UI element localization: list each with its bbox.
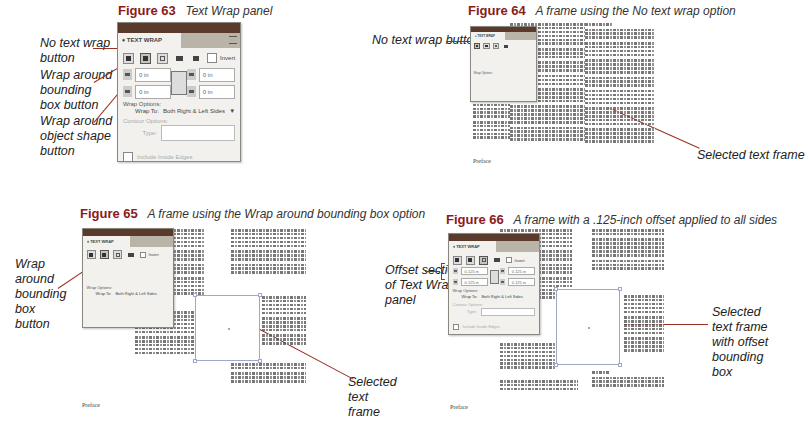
invert-option[interactable]: Invert	[140, 252, 159, 258]
object-shape-icon	[495, 45, 498, 48]
include-inside-edges-checkbox[interactable]	[123, 152, 133, 162]
jump-next-column-button[interactable]	[190, 53, 201, 64]
wrap-to-select[interactable]: Both Right & Left Sides	[481, 294, 535, 299]
jump-object-button[interactable]	[126, 250, 135, 259]
selected-text-frame[interactable]	[585, 23, 655, 146]
wrap-bounding-box-button[interactable]	[140, 53, 151, 64]
no-text-wrap-button[interactable]	[123, 53, 134, 64]
no-text-wrap-button[interactable]	[87, 250, 96, 259]
tab-text-wrap[interactable]: ♦ TEXT WRAP	[83, 236, 130, 247]
right-offset-icon	[500, 279, 505, 285]
wrap-object-shape-button[interactable]	[479, 256, 488, 265]
object-shape-icon	[116, 253, 120, 257]
contour-type-select[interactable]	[161, 125, 235, 141]
tab-text-wrap[interactable]: ♦ TEXT WRAP	[471, 32, 505, 40]
include-inside-edges-option[interactable]: Include Inside Edges	[118, 142, 240, 162]
wrap-object-shape-button[interactable]	[493, 43, 500, 50]
page-footer: Preface	[473, 158, 491, 164]
invert-checkbox[interactable]	[207, 53, 217, 63]
selected-text-frame[interactable]	[195, 295, 260, 361]
panel-tabbar: ♦ TEXT WRAP	[471, 32, 536, 40]
right-offset-icon	[187, 86, 196, 97]
selected-text-frame-offset[interactable]	[556, 289, 620, 365]
right-offset-input[interactable]: 0 in	[199, 85, 235, 99]
bottom-offset-input[interactable]: 0 in	[135, 85, 171, 99]
figure-63-title: Figure 63 Text Wrap panel	[118, 3, 272, 18]
type-label: Type:	[142, 130, 157, 136]
jump-column-icon	[193, 56, 200, 60]
left-offset-input[interactable]: 0.125 in	[508, 267, 536, 275]
contour-type-select[interactable]	[481, 308, 536, 316]
panel-menu-icon[interactable]	[229, 36, 237, 44]
wrap-bounding-box-button[interactable]	[466, 256, 475, 265]
no-text-wrap-button[interactable]	[453, 256, 462, 265]
resize-handle[interactable]	[258, 293, 262, 297]
top-offset-input[interactable]: 0.125 in	[461, 267, 489, 275]
jump-object-icon	[128, 253, 133, 257]
invert-checkbox[interactable]	[140, 252, 146, 258]
wrap-to-label: Wrap To:	[462, 294, 478, 299]
tab-text-wrap[interactable]: ♦ TEXT WRAP	[118, 33, 181, 48]
panel-titlebar[interactable]	[83, 229, 173, 236]
invert-option[interactable]: Invert	[506, 257, 525, 263]
resize-handle[interactable]	[258, 359, 262, 363]
no-text-wrap-button[interactable]	[474, 43, 481, 50]
panel-titlebar[interactable]	[118, 23, 240, 33]
bottom-offset-input[interactable]: 0.125 in	[461, 278, 489, 286]
invert-option[interactable]: Invert	[207, 53, 235, 63]
wrap-bounding-box-button[interactable]	[100, 250, 109, 259]
contour-options-label: Contour Options:	[449, 300, 539, 307]
wrap-to-row: Wrap To: Both Right & Left Sides▼	[118, 107, 240, 115]
include-inside-edges-option[interactable]: Include Inside Edges	[449, 317, 539, 332]
wrap-to-value: Both Right & Left Sides	[115, 291, 156, 296]
jump-object-button[interactable]	[502, 43, 509, 50]
callout-line	[446, 41, 472, 42]
wrap-object-shape-button[interactable]	[113, 250, 122, 259]
jump-object-button[interactable]	[492, 256, 501, 265]
wrap-to-row: Wrap To: Both Right & Left Sides	[83, 290, 173, 297]
callout-line	[425, 271, 440, 272]
invert-checkbox[interactable]	[506, 257, 512, 263]
figure-number: Figure 66	[446, 212, 504, 227]
resize-handle[interactable]	[618, 363, 622, 367]
top-offset-input[interactable]: 0 in	[135, 68, 171, 82]
tab-text-wrap[interactable]: ♦ TEXT WRAP	[449, 241, 496, 252]
right-offset-input[interactable]: 0.125 in	[508, 278, 536, 286]
jump-object-icon	[504, 45, 508, 48]
left-offset-input[interactable]: 0 in	[199, 68, 235, 82]
figure-64-title: Figure 64 A frame using the No text wrap…	[468, 3, 736, 18]
resize-handle[interactable]	[554, 287, 558, 291]
callout-selected-frame: Selected text frame with offset bounding…	[712, 305, 782, 380]
chevron-down-icon: ▼	[229, 108, 235, 114]
wrap-options-label: Wrap Options:	[118, 100, 240, 107]
wrap-bounding-box-button[interactable]	[483, 43, 490, 50]
text-wrap-panel-small: ♦ TEXT WRAP Invert Wrap Options: Wrap To…	[82, 228, 174, 328]
bounding-box-icon	[468, 258, 472, 262]
wrap-object-shape-button[interactable]	[157, 53, 168, 64]
no-wrap-icon	[126, 56, 131, 61]
text-column	[500, 343, 556, 372]
make-all-settings-same-button[interactable]	[171, 71, 187, 95]
no-wrap-icon	[455, 258, 459, 262]
callout-no-wrap: No text wrap button	[40, 36, 115, 66]
bounding-box-icon	[102, 253, 106, 257]
wrap-to-select[interactable]: Both Right & Left Sides	[115, 291, 169, 296]
wrap-to-select[interactable]: Both Right & Left Sides▼	[163, 108, 235, 114]
include-inside-edges-checkbox[interactable]	[453, 324, 459, 330]
resize-handle[interactable]	[554, 363, 558, 367]
type-row: Type:	[118, 124, 240, 142]
jump-object-icon	[494, 258, 499, 262]
resize-handle[interactable]	[618, 287, 622, 291]
panel-titlebar[interactable]	[449, 234, 539, 241]
resize-handle[interactable]	[193, 293, 197, 297]
resize-handle[interactable]	[193, 359, 197, 363]
callout-shape: Wrap around object shape button	[40, 114, 115, 159]
wrap-buttons-row: Invert	[83, 247, 173, 262]
invert-label: Invert	[149, 252, 159, 257]
callout-selected-frame: Selected text frame	[348, 375, 398, 420]
make-all-settings-same-button[interactable]	[490, 270, 499, 284]
page-footer: Preface	[450, 404, 468, 410]
figure-caption: A frame using the No text wrap option	[535, 4, 735, 18]
jump-object-button[interactable]	[174, 53, 185, 64]
no-wrap-icon	[89, 253, 93, 257]
